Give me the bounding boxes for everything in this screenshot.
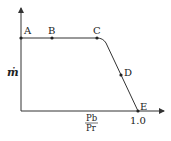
point-c-marker xyxy=(95,36,98,39)
x-tick-label: 1.0 xyxy=(130,115,146,126)
point-c-label: C xyxy=(93,25,101,36)
x-axis-label-numerator: Pb xyxy=(86,113,98,123)
point-a-label: A xyxy=(23,25,32,36)
y-axis-label: ṁ xyxy=(7,66,19,79)
diagram-canvas: A B C D E ṁ Pb Pr 1.0 xyxy=(0,0,171,141)
point-d-marker xyxy=(119,73,122,76)
point-b-marker xyxy=(50,36,53,39)
choked-flow-diagram: A B C D E ṁ Pb Pr 1.0 xyxy=(0,0,171,141)
x-axis-label-denominator: Pr xyxy=(86,123,97,133)
point-d-label: D xyxy=(124,67,132,78)
point-a-marker xyxy=(19,36,22,39)
point-b-label: B xyxy=(48,25,55,36)
point-e-label: E xyxy=(140,101,147,112)
